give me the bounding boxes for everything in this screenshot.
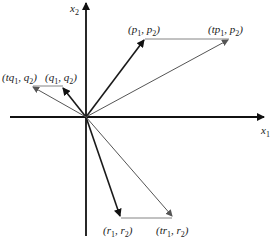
label-p: (p1, p2): [128, 23, 160, 38]
label-r: (r1, r2): [103, 224, 133, 239]
vector-tq: [33, 87, 86, 117]
label-tr: (tr1, r2): [156, 224, 189, 239]
vector-q: [63, 88, 86, 117]
vector-scaling-diagram: x1 x2 (p1, p2) (tp1, p2) (tq1, q2) (q1, …: [0, 0, 274, 240]
vector-tp: [86, 40, 228, 117]
label-tp: (tp1, p2): [208, 23, 243, 38]
label-q: (q1, q2): [45, 71, 77, 86]
label-tq: (tq1, q2): [2, 71, 37, 86]
vector-p: [86, 40, 144, 117]
vector-tr: [86, 117, 172, 216]
x1-axis-label: x1: [260, 124, 270, 139]
vector-r: [86, 117, 120, 216]
x2-axis-label: x2: [69, 2, 79, 17]
